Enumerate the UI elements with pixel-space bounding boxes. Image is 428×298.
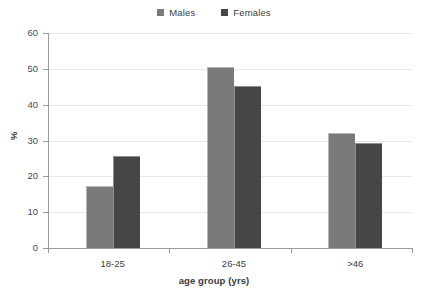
legend-swatch-males bbox=[157, 9, 164, 16]
bar-males-26-45 bbox=[207, 67, 234, 248]
bar-males->46 bbox=[328, 133, 355, 248]
y-tick-label: 40 bbox=[8, 100, 38, 110]
x-tick bbox=[169, 248, 170, 253]
bar-chart: Males Females % 0102030405060 18-2526-45… bbox=[0, 0, 428, 298]
legend-item-females: Females bbox=[221, 8, 270, 18]
x-axis-line bbox=[48, 248, 412, 249]
y-tick-label: 10 bbox=[8, 207, 38, 217]
legend-item-males: Males bbox=[157, 8, 195, 18]
legend-label-males: Males bbox=[169, 8, 195, 18]
y-tick-label: 50 bbox=[8, 64, 38, 74]
x-tick-label: >46 bbox=[347, 259, 363, 269]
y-tick-label: 60 bbox=[8, 28, 38, 38]
x-tick bbox=[412, 248, 413, 253]
x-axis-title: age group (yrs) bbox=[0, 275, 428, 286]
bar-females-18-25 bbox=[113, 156, 140, 248]
x-tick-label: 26-45 bbox=[222, 259, 246, 269]
chart-legend: Males Females bbox=[0, 8, 428, 18]
y-tick-label: 30 bbox=[8, 136, 38, 146]
y-tick-label: 20 bbox=[8, 171, 38, 181]
legend-swatch-females bbox=[221, 9, 228, 16]
x-tick bbox=[291, 248, 292, 253]
x-tick-label: 18-25 bbox=[101, 259, 125, 269]
bar-females->46 bbox=[355, 143, 382, 248]
legend-label-females: Females bbox=[233, 8, 270, 18]
y-tick-label: 0 bbox=[8, 243, 38, 253]
bar-females-26-45 bbox=[234, 86, 261, 248]
x-tick bbox=[48, 248, 49, 253]
plot-area bbox=[48, 33, 412, 248]
bar-males-18-25 bbox=[86, 186, 113, 248]
